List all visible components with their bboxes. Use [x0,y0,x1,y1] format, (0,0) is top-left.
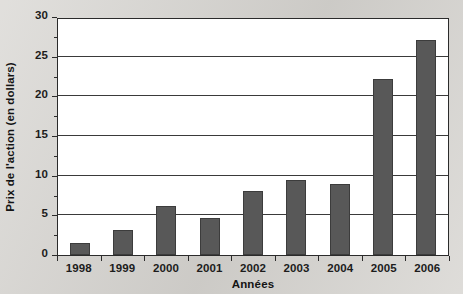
bar-slot-2004 [318,19,361,255]
x-tick-mark [57,256,58,261]
y-tick-label-30: 30 [35,10,48,22]
x-tick-mark [405,256,406,261]
bar-slot-1998 [58,19,101,255]
x-tick-label-1999: 1999 [101,262,145,277]
bar-2000[interactable] [156,206,176,255]
x-tick-label-2001: 2001 [188,262,232,277]
bar-2002[interactable] [243,191,263,255]
bar-2001[interactable] [200,218,220,255]
x-tick-mark [449,256,450,261]
bar-2005[interactable] [373,79,393,255]
x-tick-mark [144,256,145,261]
plot-area [57,18,449,256]
x-tick-label-2006: 2006 [406,262,450,277]
bar-1998[interactable] [70,243,90,255]
y-tick-label-0: 0 [42,248,49,260]
y-tick-label-5: 5 [42,208,49,220]
x-tick-label-2003: 2003 [275,262,319,277]
bar-slot-2003 [275,19,318,255]
y-tick-label-10: 10 [35,169,48,181]
bar-slot-2002 [231,19,274,255]
bar-2003[interactable] [286,180,306,255]
x-tick-mark [362,256,363,261]
y-tick-label-15: 15 [35,129,48,141]
x-tick-mark [101,256,102,261]
x-tick-label-1998: 1998 [57,262,101,277]
x-tick-label-2004: 2004 [318,262,362,277]
bar-slot-1999 [101,19,144,255]
y-tick-label-25: 25 [35,50,48,62]
x-tick-mark [188,256,189,261]
y-axis: 051015202530 [0,18,57,256]
bars-group [58,19,448,255]
bar-2004[interactable] [330,184,350,255]
bar-slot-2006 [405,19,448,255]
bar-slot-2005 [361,19,404,255]
bar-slot-2001 [188,19,231,255]
bar-1999[interactable] [113,230,133,255]
y-tick-label-20: 20 [35,89,48,101]
bar-2006[interactable] [416,40,436,255]
bar-slot-2000 [145,19,188,255]
x-axis-title: Années [57,278,449,290]
chart-page: Prix de l'action (en dollars) 0510152025… [0,0,463,294]
x-axis-labels: 199819992000200120022003200420052006 [57,262,449,277]
x-tick-label-2000: 2000 [144,262,188,277]
x-tick-mark [318,256,319,261]
x-tick-label-2002: 2002 [231,262,275,277]
x-tick-label-2005: 2005 [362,262,406,277]
x-tick-mark [275,256,276,261]
x-tick-mark [231,256,232,261]
